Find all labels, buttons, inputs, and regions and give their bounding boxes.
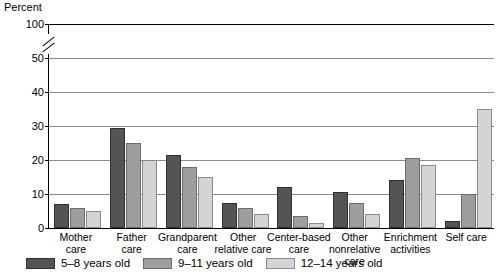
bar	[309, 223, 324, 228]
bar	[70, 208, 85, 228]
x-axis-labels: MothercareFathercareGrandparentcareOther…	[48, 231, 494, 257]
x-axis-label-line: activities	[377, 243, 445, 255]
legend-swatch	[143, 258, 172, 269]
bar-group	[166, 24, 213, 228]
y-tick-label-50: 50	[4, 53, 44, 64]
y-tick-label-30: 30	[4, 121, 44, 132]
bar	[277, 187, 292, 228]
legend-label: 5–8 years old	[61, 257, 130, 269]
legend-item: 5–8 years old	[26, 257, 130, 269]
bar	[166, 155, 181, 228]
x-axis-label-line: Self care	[432, 231, 500, 243]
bar	[86, 211, 101, 228]
bar	[445, 221, 460, 228]
bar-group	[333, 24, 380, 228]
bar	[126, 143, 141, 228]
chart-legend: 5–8 years old9–11 years old12–14 years o…	[26, 255, 395, 271]
bar-group	[445, 24, 492, 228]
bar	[333, 192, 348, 228]
y-tick-label-40: 40	[4, 87, 44, 98]
bar	[222, 203, 237, 229]
legend-item: 9–11 years old	[143, 257, 253, 269]
bar-group	[389, 24, 436, 228]
y-tick-label-20: 20	[4, 155, 44, 166]
x-axis-line	[48, 228, 494, 229]
bar	[461, 194, 476, 228]
bar	[389, 180, 404, 228]
legend-swatch	[266, 258, 295, 269]
bar	[349, 203, 364, 229]
y-axis-title: Percent	[4, 1, 42, 13]
bar-group	[277, 24, 324, 228]
bar	[477, 109, 492, 228]
y-tick-label-0: 0	[4, 223, 44, 234]
y-tick-label-10: 10	[4, 189, 44, 200]
bar	[365, 214, 380, 228]
bar-group	[54, 24, 101, 228]
bar	[254, 214, 269, 228]
bar	[405, 158, 420, 228]
x-axis-label: Self care	[432, 231, 500, 243]
y-tick-label-100: 100	[4, 19, 44, 30]
bar	[142, 160, 157, 228]
legend-label: 12–14 years old	[301, 257, 383, 269]
bar-chart: Percent 01020304050100 MothercareFatherc…	[0, 0, 503, 274]
bar	[421, 165, 436, 228]
bar-group	[110, 24, 157, 228]
bar-groups	[48, 24, 494, 228]
legend-swatch	[26, 258, 55, 269]
bar	[110, 128, 125, 228]
bar	[182, 167, 197, 228]
bar	[198, 177, 213, 228]
bar	[54, 204, 69, 228]
legend-item: 12–14 years old	[266, 257, 383, 269]
bar	[238, 208, 253, 228]
bar	[293, 216, 308, 228]
bar-group	[222, 24, 269, 228]
legend-label: 9–11 years old	[178, 257, 253, 269]
